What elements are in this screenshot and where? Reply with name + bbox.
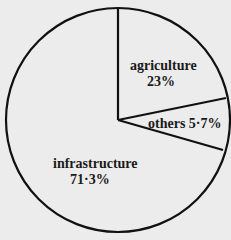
infrastructure-value: 71·3% [70,172,110,188]
infrastructure-label: infrastructure [53,156,138,172]
others-label: others 5·7% [148,116,222,132]
agriculture-value: 23% [147,74,175,90]
agriculture-label: agriculture [130,58,197,74]
